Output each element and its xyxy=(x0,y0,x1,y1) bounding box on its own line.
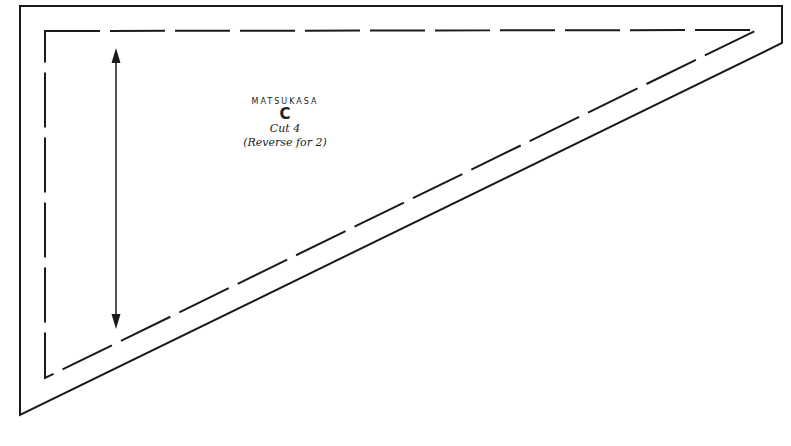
piece-letter: C xyxy=(200,107,370,122)
arrowhead-down-icon xyxy=(112,314,121,329)
reverse-note: (Reverse for 2) xyxy=(200,136,370,150)
cut-instruction: Cut 4 xyxy=(200,122,370,136)
pattern-piece-diagram xyxy=(0,0,791,446)
cutting-line xyxy=(20,6,782,415)
piece-label: MATSUKASA C Cut 4 (Reverse for 2) xyxy=(200,97,370,150)
arrowhead-up-icon xyxy=(112,48,121,63)
seam-line xyxy=(45,30,757,378)
